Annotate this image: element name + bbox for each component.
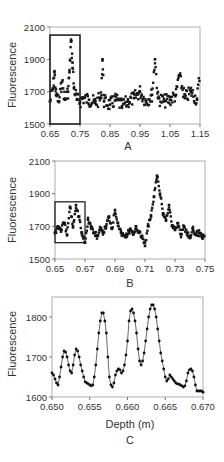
x-tick-label: 0.665 [153,401,177,412]
x-axis-ticks-b: 0.650.670.690.710.730.75 [46,259,215,274]
x-tick-label: 0.65 [41,128,60,139]
chart-panel-a: 1500170019002100 0.650.750.850.951.051.1… [6,22,209,153]
y-axis-label-c: Fluorescence [6,311,18,377]
y-tick-label: 2100 [29,156,50,167]
y-tick-label: 1700 [24,86,45,97]
x-tick-label: 0.75 [71,128,90,139]
x-tick-label: 0.95 [131,128,150,139]
x-tick-label: 0.69 [106,263,125,274]
caption-c: C [126,434,134,446]
y-tick-label: 1700 [29,221,50,232]
x-tick-label: 1.05 [161,128,180,139]
x-tick-label: 0.65 [46,263,65,274]
y-axis-label-a: Fluorescence [6,42,18,108]
y-axis-ticks-a: 1500170019002100 [24,22,50,130]
y-tick-label: 1900 [24,54,45,65]
x-tick-label: 0.73 [166,263,185,274]
x-tick-label: 0.75 [196,263,215,274]
x-tick-label: 0.670 [191,401,215,412]
x-tick-label: 0.660 [116,401,140,412]
x-axis-ticks-a: 0.650.750.850.951.051.15 [41,124,210,139]
x-tick-label: 0.85 [101,128,120,139]
figure: 1500170019002100 0.650.750.850.951.051.1… [0,0,224,462]
plot-area-c [52,297,203,397]
x-tick-label: 0.655 [78,401,102,412]
x-tick-label: 0.650 [40,401,64,412]
data-series-c [51,304,205,394]
x-tick-label: 0.71 [136,263,155,274]
x-tick-label: 1.15 [191,128,210,139]
data-series-b [54,174,206,247]
y-axis-ticks-b: 1500170019002100 [29,156,55,265]
y-tick-label: 1800 [26,312,47,323]
x-axis-ticks-c: 0.6500.6550.6600.6650.670 [40,397,215,412]
y-tick-label: 1700 [26,352,47,363]
y-axis-ticks-c: 160017001800 [26,312,52,403]
y-axis-label-b: Fluorescence [6,177,18,243]
chart-panel-b: 1500170019002100 0.650.670.690.710.730.7… [6,156,214,290]
caption-a: A [124,140,132,152]
y-tick-label: 1900 [29,188,50,199]
y-tick-label: 2100 [24,22,45,33]
caption-b: B [126,277,133,289]
x-tick-label: 0.67 [76,263,95,274]
data-series-a [49,38,201,110]
chart-panel-c: 160017001800 0.6500.6550.6600.6650.670 F… [6,297,215,446]
x-axis-label-c: Depth (m) [106,418,155,430]
